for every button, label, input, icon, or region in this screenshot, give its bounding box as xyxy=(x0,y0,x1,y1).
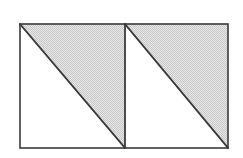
geometry-figure-svg xyxy=(0,0,243,158)
figure-container: 1 1 xyxy=(0,0,243,158)
